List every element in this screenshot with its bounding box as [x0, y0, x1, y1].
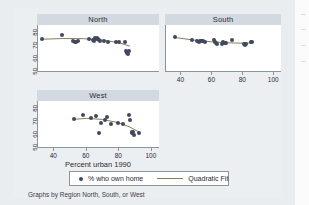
page-edge-artifact [295, 0, 309, 205]
y-tick-mark [34, 105, 37, 106]
plot-area-south [165, 25, 281, 72]
x-tick-label: 40 [43, 152, 63, 159]
panel-west: West [37, 90, 159, 148]
y-tick-label: 60 [32, 131, 38, 145]
data-point [89, 116, 93, 120]
y-tick-label: 50 [32, 144, 38, 158]
legend: % who own home Quadratic Fit [69, 171, 229, 186]
x-axis-title: Percent urban 1990 [37, 160, 159, 169]
panel-title-south: South [165, 14, 281, 25]
figure-inner: North 50607080 South 406080100 West 5060… [13, 8, 281, 198]
data-point [76, 39, 80, 43]
data-point [109, 122, 113, 126]
data-point [81, 113, 85, 117]
data-point [127, 49, 131, 53]
panel-north: North [37, 14, 159, 72]
y-tick-label: 60 [32, 55, 38, 69]
data-point [106, 40, 110, 44]
legend-marker-icon [79, 177, 83, 181]
legend-line-icon [157, 178, 183, 179]
data-point [116, 121, 120, 125]
data-point [190, 38, 194, 42]
x-tick-label: 60 [76, 152, 96, 159]
x-tick-label: 60 [201, 76, 221, 83]
y-tick-label: 50 [32, 68, 38, 82]
data-point [244, 42, 248, 46]
data-point [121, 122, 125, 126]
plot-area-west [37, 101, 159, 148]
data-point [117, 40, 121, 44]
data-point [132, 133, 136, 137]
data-point [203, 40, 207, 44]
x-tick-label: 100 [141, 152, 161, 159]
data-point [102, 39, 106, 43]
x-tick-mark [118, 148, 119, 151]
figure-caption: Graphs by Region North, South, or West [28, 191, 145, 198]
x-tick-mark [211, 72, 212, 75]
data-point [40, 37, 44, 41]
x-tick-mark [242, 72, 243, 75]
legend-marker-label: % who own home [88, 175, 143, 182]
x-tick-label: 40 [170, 76, 190, 83]
y-tick-label: 70 [32, 118, 38, 132]
x-tick-mark [273, 72, 274, 75]
legend-line-label: Quadratic Fit [188, 175, 228, 182]
data-point [72, 117, 76, 121]
plot-area-north [37, 25, 159, 72]
x-tick-mark [86, 148, 87, 151]
y-tick-label: 70 [32, 42, 38, 56]
x-tick-label: 100 [263, 76, 283, 83]
y-tick-label: 80 [32, 105, 38, 119]
x-tick-mark [151, 148, 152, 151]
quadratic-fit-line [38, 25, 159, 71]
y-tick-mark [34, 29, 37, 30]
x-tick-mark [180, 72, 181, 75]
panel-title-west: West [37, 90, 159, 101]
figure-canvas: North 50607080 South 406080100 West 5060… [0, 0, 309, 205]
panel-south: South [165, 14, 281, 72]
quadratic-fit-line [166, 25, 281, 71]
y-tick-label: 80 [32, 29, 38, 43]
data-point [137, 131, 141, 135]
panel-title-north: North [37, 14, 159, 25]
x-tick-label: 80 [108, 152, 128, 159]
x-tick-label: 80 [232, 76, 252, 83]
data-point [224, 41, 228, 45]
x-tick-mark [53, 148, 54, 151]
data-point [173, 35, 177, 39]
